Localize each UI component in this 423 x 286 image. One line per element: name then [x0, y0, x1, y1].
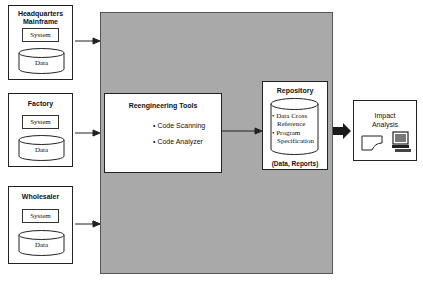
tools-title: Reengineering Tools [105, 102, 221, 109]
reengineering-tools-box: Reengineering Tools • Code Scanning • Co… [104, 93, 222, 173]
repository-title: Repository [263, 87, 327, 94]
impact-title-line2: Analysis [354, 120, 416, 129]
repository-box: Repository • Data Cross Reference • Prog… [262, 81, 328, 170]
impact-title-line1: Impact [354, 111, 416, 120]
tools-item-code-analyzer: • Code Analyzer [153, 138, 203, 145]
computer-icon [391, 131, 413, 153]
tools-item-code-scanning: • Code Scanning [153, 122, 205, 129]
impact-title: Impact Analysis [354, 111, 416, 129]
repository-item: • Data Cross [272, 112, 307, 120]
repository-item: Specification [277, 137, 314, 145]
repository-item: Reference [277, 120, 305, 128]
impact-analysis-box: Impact Analysis [353, 100, 417, 161]
repository-item: • Program [272, 129, 300, 137]
document-icon [361, 135, 383, 151]
repository-footer: (Data, Reports) [263, 160, 327, 167]
